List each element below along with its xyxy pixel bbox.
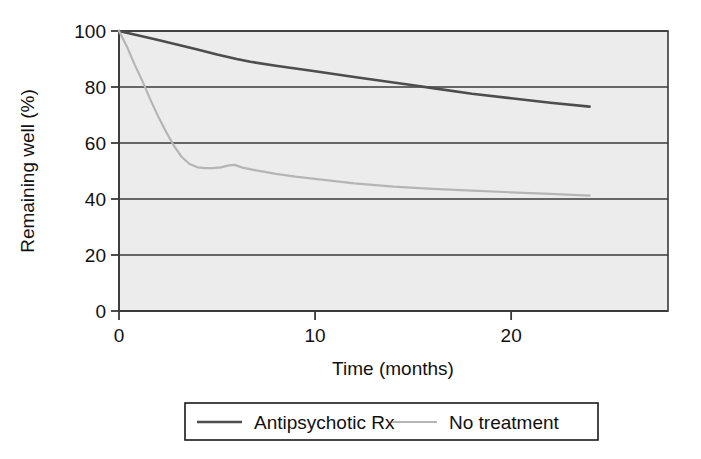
y-axis-title: Remaining well (%) [17,89,38,253]
legend-label: Antipsychotic Rx [254,412,395,433]
y-tick-label: 80 [85,77,106,98]
plot-background [119,31,668,311]
y-tick-label: 60 [85,133,106,154]
y-tick-label: 20 [85,245,106,266]
legend: Antipsychotic RxNo treatment [185,403,598,440]
x-tick-label: 20 [501,325,522,346]
y-tick-label: 0 [95,301,106,322]
y-tick-label: 40 [85,189,106,210]
chart-figure: 020406080100 01020 Time (months) Remaini… [0,0,701,459]
legend-label: No treatment [449,412,560,433]
y-axis-tick-group: 020406080100 [74,21,119,322]
x-axis-tick-group: 01020 [114,311,522,346]
x-tick-label: 10 [305,325,326,346]
x-tick-label: 0 [114,325,125,346]
x-axis-title: Time (months) [332,358,454,379]
chart-svg: 020406080100 01020 Time (months) Remaini… [0,0,701,459]
y-tick-label: 100 [74,21,106,42]
